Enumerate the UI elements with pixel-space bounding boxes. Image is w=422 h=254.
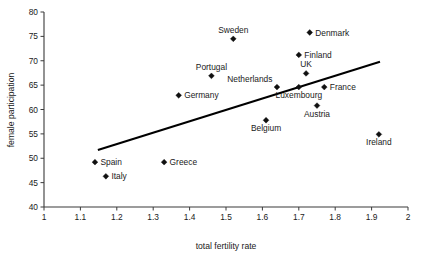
y-axis-title: female participation <box>6 73 16 148</box>
data-point-label: Italy <box>111 171 127 181</box>
x-tick-label: 1.2 <box>111 212 123 222</box>
data-point-label: Netherlands <box>227 74 272 84</box>
data-point-label: Ireland <box>366 137 392 147</box>
y-tick-label: 40 <box>29 202 39 212</box>
y-tick-label: 80 <box>29 7 39 17</box>
x-tick-label: 1.1 <box>75 212 87 222</box>
x-tick-label: 1.6 <box>257 212 269 222</box>
x-axis: 11.11.21.31.41.51.61.71.81.92 <box>42 207 411 222</box>
data-point <box>230 36 236 42</box>
y-axis-ticks: 404550556065707580 <box>29 7 44 212</box>
x-tick-label: 1.8 <box>329 212 341 222</box>
data-point <box>307 30 313 36</box>
data-point-label: Austria <box>304 109 330 119</box>
x-tick-label: 1.4 <box>184 212 196 222</box>
data-point-label: Belgium <box>251 123 281 133</box>
data-point-label: Sweden <box>218 25 249 35</box>
x-axis-title: total fertility rate <box>196 241 257 251</box>
data-point-label: Spain <box>100 157 122 167</box>
y-axis: 404550556065707580 <box>29 7 44 212</box>
y-tick-label: 55 <box>29 129 39 139</box>
x-tick-label: 1.9 <box>366 212 378 222</box>
data-point <box>103 173 109 179</box>
data-point-series <box>92 30 382 180</box>
data-point <box>176 92 182 98</box>
y-tick-label: 70 <box>29 56 39 66</box>
scatter-chart: 404550556065707580 11.11.21.31.41.51.61.… <box>0 0 422 254</box>
y-tick-label: 50 <box>29 153 39 163</box>
y-tick-label: 75 <box>29 31 39 41</box>
y-tick-label: 45 <box>29 178 39 188</box>
x-tick-label: 1 <box>42 212 47 222</box>
data-point <box>161 159 167 165</box>
data-point-label: Greece <box>170 157 198 167</box>
data-point-label: Germany <box>184 90 219 100</box>
data-point-label: UK <box>300 59 312 69</box>
x-tick-label: 1.7 <box>293 212 305 222</box>
data-point-label: Denmark <box>315 28 350 38</box>
y-tick-label: 60 <box>29 105 39 115</box>
data-point-label: Portugal <box>196 62 227 72</box>
data-point-label: Luxembourg <box>276 90 323 100</box>
y-tick-label: 65 <box>29 80 39 90</box>
chart-canvas: 404550556065707580 11.11.21.31.41.51.61.… <box>0 0 422 254</box>
x-tick-label: 2 <box>406 212 411 222</box>
x-tick-label: 1.3 <box>147 212 159 222</box>
data-point-label: France <box>330 82 356 92</box>
data-point <box>321 84 327 90</box>
x-axis-ticks: 11.11.21.31.41.51.61.71.81.92 <box>42 207 411 222</box>
data-point <box>209 73 215 79</box>
x-tick-label: 1.5 <box>220 212 232 222</box>
data-point <box>303 71 309 77</box>
data-point <box>92 159 98 165</box>
data-point <box>296 52 302 58</box>
